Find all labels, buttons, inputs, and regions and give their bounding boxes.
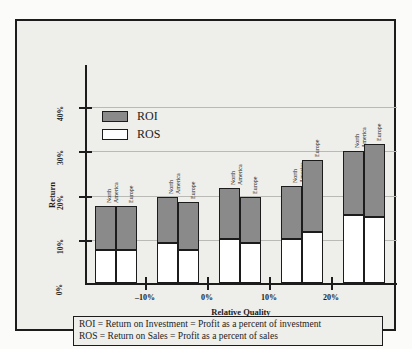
- bar-segment-ros: [219, 239, 240, 283]
- bar-label-europe: Europe: [128, 186, 135, 203]
- bar-segment-ros: [302, 232, 323, 283]
- legend-swatch-roi-icon: [102, 111, 128, 122]
- bar-label-europe: Europe: [376, 124, 383, 141]
- bar-label-europe: Europe: [252, 177, 259, 194]
- x-tick-20: [331, 277, 333, 290]
- x-tick-neg10: [145, 277, 147, 290]
- y-tick-label-30-text: 30%: [56, 150, 65, 165]
- bar-label-north-america: North America: [106, 182, 119, 203]
- bar-segment-roi: [178, 202, 199, 250]
- bar-label-europe: Europe: [190, 181, 197, 198]
- bar-north-america[interactable]: [343, 151, 364, 283]
- x-tick-label-neg10: –10%: [125, 293, 165, 302]
- bar-segment-ros: [364, 217, 385, 283]
- bar-segment-roi: [219, 188, 240, 239]
- legend-item-ros[interactable]: ROS: [102, 127, 160, 142]
- bar-segment-ros: [178, 250, 199, 283]
- y-tick-label-30: 30%: [45, 146, 75, 156]
- bar-segment-roi: [157, 197, 178, 243]
- x-tick-label-0: 0%: [187, 293, 227, 302]
- legend-label-ros: ROS: [137, 127, 160, 142]
- note-line-roi: ROI = Return on Investment = Profit as a…: [79, 319, 377, 331]
- bar-segment-roi: [302, 160, 323, 233]
- bar-segment-ros: [281, 239, 302, 283]
- x-axis-line: [85, 283, 397, 285]
- bar-segment-ros: [157, 243, 178, 283]
- bar-segment-roi: [95, 206, 116, 250]
- note-line-ros: ROS = Return on Sales = Profit as a perc…: [79, 331, 377, 343]
- bar-north-america[interactable]: [157, 197, 178, 283]
- bar-label-europe: Europe: [314, 139, 321, 156]
- legend-label-roi: ROI: [137, 109, 158, 124]
- y-tick-label-10-text: 10%: [56, 239, 65, 254]
- y-tick-20: [79, 196, 92, 198]
- x-tick-10: [269, 277, 271, 290]
- bar-segment-ros: [95, 250, 116, 283]
- legend-item-roi[interactable]: ROI: [102, 109, 160, 124]
- bar-segment-roi: [281, 186, 302, 239]
- bar-europe[interactable]: [364, 144, 385, 283]
- y-axis-title-text: Return: [47, 194, 57, 208]
- bar-segment-roi: [116, 206, 137, 250]
- y-axis-title: Return: [45, 171, 59, 231]
- bar-europe[interactable]: [178, 202, 199, 283]
- bar-north-america[interactable]: [281, 186, 302, 283]
- bar-segment-roi: [343, 151, 364, 215]
- bar-label-north-america: North America: [230, 165, 243, 186]
- bar-segment-ros: [343, 215, 364, 283]
- y-tick-40: [79, 107, 92, 109]
- x-tick-label-20: 20%: [311, 293, 351, 302]
- bar-segment-ros: [116, 250, 137, 283]
- definitions-note-box: ROI = Return on Investment = Profit as a…: [73, 316, 383, 346]
- bar-north-america[interactable]: [219, 188, 240, 283]
- bar-segment-roi: [240, 197, 261, 243]
- legend-swatch-ros-icon: [102, 129, 128, 140]
- y-tick-label-40-text: 40%: [56, 106, 65, 121]
- y-tick-label-0-text: 0%: [56, 284, 65, 295]
- y-tick-30: [79, 151, 92, 153]
- bar-europe[interactable]: [116, 206, 137, 283]
- chart-figure: 40% 30% 20% 10% 0% Return –10% 0% 10% 20…: [0, 0, 412, 349]
- y-tick-label-0: 0%: [45, 278, 75, 288]
- chart-legend: ROI ROS: [102, 109, 160, 145]
- bar-segment-roi: [364, 144, 385, 217]
- y-tick-label-10: 10%: [45, 235, 75, 245]
- y-axis-line: [85, 65, 87, 284]
- x-tick-0: [207, 277, 209, 290]
- y-tick-label-40: 40%: [45, 102, 75, 112]
- gridline-40: [85, 107, 397, 108]
- y-tick-10: [79, 240, 92, 242]
- bar-europe[interactable]: [302, 160, 323, 283]
- chart-frame: 40% 30% 20% 10% 0% Return –10% 0% 10% 20…: [15, 19, 396, 331]
- bar-segment-ros: [240, 243, 261, 283]
- bar-label-north-america: North America: [168, 174, 181, 195]
- bar-europe[interactable]: [240, 197, 261, 283]
- bar-north-america[interactable]: [95, 206, 116, 283]
- x-tick-label-10: 10%: [249, 293, 289, 302]
